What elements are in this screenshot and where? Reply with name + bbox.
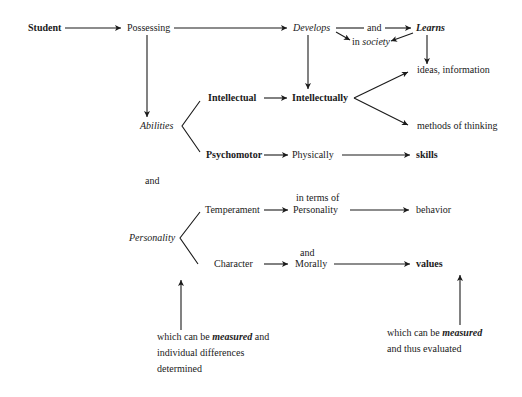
node-possessing: Possessing — [127, 22, 170, 33]
node-in-society: in society — [352, 36, 391, 47]
node-physically: Physically — [292, 149, 334, 160]
node-and-morally-top: and — [300, 247, 314, 258]
node-learns: Learns — [415, 22, 445, 33]
node-skills: skills — [416, 149, 438, 160]
node-personality: Personality — [128, 232, 176, 243]
arrow-develops-society — [336, 32, 350, 40]
branch-personality — [180, 212, 200, 264]
node-behavior: behavior — [416, 204, 452, 215]
node-temperament: Temperament — [205, 204, 260, 215]
arrow-learns-society — [391, 33, 413, 41]
node-character: Character — [214, 258, 254, 269]
note-right-line1: which can be measured — [387, 327, 483, 338]
node-psychomotor: Psychomotor — [206, 149, 263, 160]
note-left-line2: individual differences — [157, 347, 244, 358]
arrow-intellectually-ideas — [354, 72, 408, 98]
node-morally: Morally — [295, 258, 327, 269]
branch-abilities — [182, 101, 200, 152]
node-abilities: Abilities — [139, 120, 173, 131]
node-intellectual: Intellectual — [208, 92, 257, 103]
note-left-emphasis: measured — [212, 331, 253, 342]
note-right-emphasis: measured — [442, 327, 483, 338]
node-and-middle: and — [145, 175, 159, 186]
node-and-top: and — [367, 22, 381, 33]
note-left: which can be measured and individual dif… — [157, 331, 269, 374]
node-ideas-information: ideas, information — [417, 64, 490, 75]
note-right-line2: and thus evaluated — [387, 343, 461, 354]
node-methods-of-thinking: methods of thinking — [417, 120, 498, 131]
node-student: Student — [28, 22, 62, 33]
society-word: society — [362, 36, 390, 47]
note-left-line1: which can be measured and — [157, 331, 269, 342]
note-left-line3: determined — [157, 363, 202, 374]
node-develops: Develops — [292, 22, 330, 33]
note-right: which can be measured and thus evaluated — [387, 327, 483, 354]
node-intellectually: Intellectually — [292, 92, 348, 103]
node-personality-term: Personality — [293, 204, 338, 215]
diagram-canvas: Student Possessing Develops and Learns i… — [0, 0, 522, 397]
arrow-intellectually-methods — [354, 98, 408, 125]
node-values: values — [416, 258, 443, 269]
node-in-terms-of: in terms of — [296, 192, 340, 203]
